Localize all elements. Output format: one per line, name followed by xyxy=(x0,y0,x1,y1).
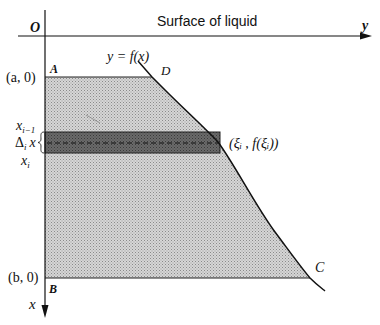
delta-x-brace-icon xyxy=(38,132,44,153)
a0-label: (a, 0) xyxy=(6,70,36,86)
point-C-label: C xyxy=(315,260,325,275)
diagram-canvas: O Surface of liquid y x y = f(x) A D B C… xyxy=(0,0,380,325)
x-i-label: xi xyxy=(20,153,30,170)
shaded-plate-region xyxy=(45,77,310,278)
x-axis-label: x xyxy=(28,296,36,312)
strip-point-label: (ξᵢ , f(ξᵢ)) xyxy=(229,136,279,152)
b0-label: (b, 0) xyxy=(8,270,39,286)
delta-i-x-label: Δix xyxy=(15,135,37,152)
y-axis-arrowhead-icon xyxy=(360,33,372,40)
origin-label: O xyxy=(30,20,40,35)
y-axis-label: y xyxy=(360,18,369,33)
surface-label: Surface of liquid xyxy=(157,13,257,29)
x-axis-arrowhead-icon xyxy=(42,305,49,318)
point-B-label: B xyxy=(48,282,57,296)
x-i-minus-1-label: xi−1 xyxy=(15,118,35,135)
curve-label: y = f(x) xyxy=(105,49,149,65)
point-D-label: D xyxy=(160,63,171,78)
point-A-label: A xyxy=(49,62,58,76)
